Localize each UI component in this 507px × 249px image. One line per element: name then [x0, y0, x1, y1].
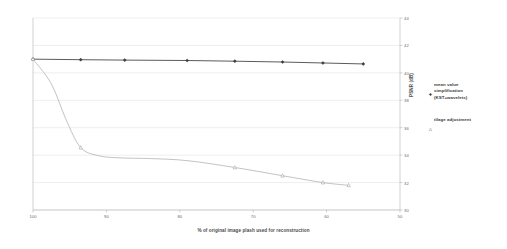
legend-label: mean value simplification (KST+wavelets)	[428, 82, 504, 101]
x-axis-tick-label: 100	[29, 214, 36, 219]
data-point-marker-diamond	[186, 59, 189, 62]
y-axis-tick-label: 30	[404, 208, 409, 213]
data-point-marker-diamond	[321, 61, 324, 64]
data-point-marker-diamond	[429, 93, 432, 96]
data-point-marker-diamond	[123, 59, 126, 62]
x-axis-tick-label: 60	[324, 214, 329, 219]
legend-label: tilage adjustment	[428, 117, 504, 123]
y-axis-tick-label: 44	[404, 16, 409, 21]
series-layer	[31, 57, 365, 186]
data-point-marker-diamond	[233, 60, 236, 63]
legend-entry[interactable]: tilage adjustment	[428, 117, 504, 123]
y-axis-tick-label: 36	[404, 125, 409, 130]
x-axis-tick-label: 90	[104, 214, 109, 219]
data-point-marker-diamond	[79, 58, 82, 61]
y-axis-title: PSNR (dB)	[409, 73, 414, 97]
chart-legend: mean value simplification (KST+wavelets)…	[428, 82, 504, 140]
y-axis-tick-label: 42	[404, 43, 409, 48]
y-axis-tick-label: 38	[404, 98, 409, 103]
legend-triangle-icon	[428, 118, 433, 123]
legend-entry[interactable]: mean value simplification (KST+wavelets)	[428, 82, 504, 101]
x-axis-tick-label: 50	[398, 214, 403, 219]
chart-container: 10090807060503032343638404244 % of origi…	[0, 0, 507, 249]
y-axis-tick-label: 32	[404, 180, 409, 185]
x-axis-title: % of original image plash used for recon…	[197, 228, 309, 233]
x-axis-tick-label: 80	[177, 214, 182, 219]
series-line	[33, 59, 363, 64]
y-axis-tick-label: 34	[404, 153, 409, 158]
legend-diamond-icon	[428, 83, 433, 88]
gridlines	[33, 18, 400, 210]
data-point-marker-diamond	[362, 62, 365, 65]
data-point-marker-diamond	[281, 60, 284, 63]
x-axis-tick-label: 70	[251, 214, 256, 219]
axis-lines	[33, 18, 403, 213]
chart-series	[31, 58, 365, 66]
series-line	[33, 59, 349, 185]
chart-series	[31, 57, 350, 186]
data-point-marker-triangle	[429, 128, 432, 131]
